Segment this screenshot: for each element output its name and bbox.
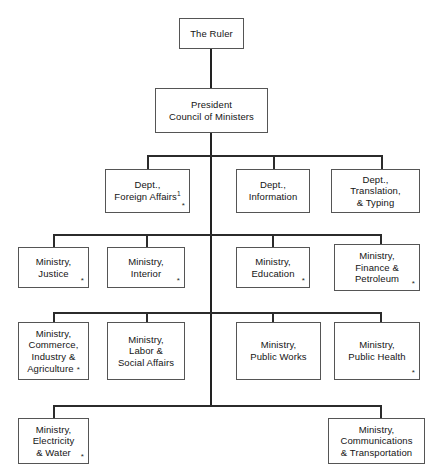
node-label: Ministry,Labor &Social Affairs — [115, 334, 177, 369]
node-ministry-public-health[interactable]: Ministry,Public Health * — [334, 322, 420, 380]
asterisk-marker: * — [81, 277, 84, 285]
node-dept-translation-typing[interactable]: Dept.,Translation,& Typing — [331, 169, 420, 213]
node-label: Ministry,Justice — [33, 256, 75, 279]
node-label: Ministry,Education — [248, 256, 297, 279]
node-label: The Ruler — [187, 28, 236, 40]
node-label: PresidentCouncil of Ministers — [166, 99, 257, 122]
connector-bus-departments — [147, 155, 382, 157]
connector-bus-ministries-row2 — [53, 312, 381, 314]
connector-drop-electricity — [53, 405, 55, 418]
node-label: Ministry,Interior — [125, 256, 167, 279]
node-ministry-commerce-industry-agriculture[interactable]: Ministry,Commerce,Industry &Agriculture* — [18, 322, 89, 380]
node-president-council-of-ministers[interactable]: PresidentCouncil of Ministers — [155, 88, 268, 133]
node-dept-foreign-affairs[interactable]: Dept.,Foreign Affairs1 * — [105, 169, 190, 213]
node-label: Ministry,Commerce,Industry &Agriculture* — [24, 328, 83, 374]
node-ministry-interior[interactable]: Ministry,Interior * — [107, 247, 185, 288]
asterisk-marker: * — [177, 277, 180, 285]
node-dept-information[interactable]: Dept.,Information — [236, 169, 310, 213]
node-label: Dept.,Translation,& Typing — [347, 174, 403, 209]
node-label: Ministry,Electricity& Water — [30, 424, 78, 459]
node-ministry-communications-transportation[interactable]: Ministry,Communications& Transportation — [328, 418, 425, 464]
org-chart: The Ruler PresidentCouncil of Ministers … — [0, 0, 445, 471]
connector-drop-justice — [53, 234, 55, 247]
node-label: Dept.,Information — [246, 179, 301, 202]
node-label: Ministry,Finance &Petroleum — [352, 250, 402, 285]
asterisk-marker: * — [302, 277, 305, 285]
node-ministry-justice[interactable]: Ministry,Justice * — [18, 247, 89, 288]
asterisk-marker: * — [77, 365, 80, 374]
connector-drop-information — [273, 155, 275, 169]
node-label: Ministry,Public Works — [247, 339, 309, 362]
node-ministry-public-works[interactable]: Ministry,Public Works — [236, 322, 321, 380]
asterisk-marker: * — [412, 369, 415, 377]
connector-drop-education — [272, 234, 274, 247]
node-ministry-labor-social-affairs[interactable]: Ministry,Labor &Social Affairs — [107, 322, 185, 380]
asterisk-marker: * — [182, 202, 185, 210]
connector-drop-communications — [380, 405, 382, 418]
footnote-superscript: 1 — [177, 190, 181, 197]
node-ministry-electricity-water[interactable]: Ministry,Electricity& Water * — [18, 418, 89, 464]
connector-bus-ministries-row1 — [53, 234, 381, 236]
asterisk-marker: * — [412, 280, 415, 288]
connector-drop-translation — [381, 155, 383, 169]
node-ministry-education[interactable]: Ministry,Education * — [236, 247, 310, 288]
node-ministry-finance-petroleum[interactable]: Ministry,Finance &Petroleum * — [334, 244, 420, 291]
node-label: Ministry,Communications& Transportation — [337, 424, 415, 459]
node-the-ruler[interactable]: The Ruler — [179, 18, 244, 49]
connector-drop-foreign-affairs — [147, 155, 149, 169]
asterisk-marker: * — [81, 453, 84, 461]
node-label: Ministry,Public Health — [345, 339, 408, 362]
node-label: Dept.,Foreign Affairs1 — [111, 179, 183, 202]
connector-drop-interior — [146, 234, 148, 247]
connector-ruler-to-president — [210, 48, 212, 88]
connector-bus-ministries-row3 — [53, 405, 381, 407]
connector-main-trunk — [210, 133, 212, 405]
